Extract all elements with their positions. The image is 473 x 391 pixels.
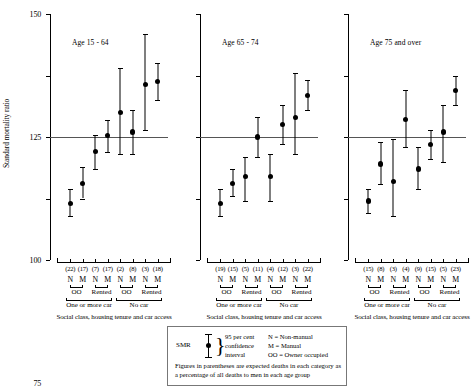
- x-tick: [108, 259, 109, 262]
- expected-deaths-label: (22): [303, 265, 313, 272]
- expected-deaths-label: (8): [129, 265, 136, 272]
- x-tick: [431, 259, 432, 262]
- car-access-label: One or more car: [216, 301, 262, 309]
- x-axis-end-tick: [355, 258, 356, 262]
- social-class-label: N: [92, 275, 98, 284]
- expected-deaths-label: (18): [153, 265, 163, 272]
- expected-deaths-label: (15): [228, 265, 238, 272]
- social-class-label: M: [377, 275, 384, 284]
- x-axis-caption: Social class, housing tenure and car acc…: [56, 313, 171, 321]
- y-tick: [196, 14, 200, 15]
- x-tick: [158, 259, 159, 262]
- expected-deaths-label: (4): [402, 265, 409, 272]
- social-class-label: M: [427, 275, 434, 284]
- social-class-label: M: [304, 275, 311, 284]
- tenure-label: OO: [71, 288, 81, 296]
- y-tick: [196, 260, 200, 261]
- expected-deaths-label: (22): [65, 265, 75, 272]
- tenure-label: OO: [419, 288, 429, 296]
- x-tick: [368, 259, 369, 262]
- legend-errorbar-icon: [204, 333, 213, 359]
- panel-age-15-64: 5075100125150Age 15 - 64(22)N(17)M(7)N(1…: [22, 0, 172, 330]
- expected-deaths-label: (12): [278, 265, 288, 272]
- social-class-label: M: [279, 275, 286, 284]
- legend-brace-icon: }: [215, 333, 226, 357]
- expected-deaths-label: (19): [215, 265, 225, 272]
- y-tick: [196, 76, 200, 77]
- social-class-label: M: [104, 275, 111, 284]
- tenure-label: Rented: [390, 288, 410, 296]
- x-tick: [308, 259, 309, 262]
- social-class-label: N: [292, 275, 298, 284]
- y-tick: [344, 199, 348, 200]
- x-axis-end-tick: [57, 258, 58, 262]
- expected-deaths-label: (15): [426, 265, 436, 272]
- x-tick: [145, 259, 146, 262]
- legend-smr-label: SMR: [176, 341, 191, 349]
- tenure-label: OO: [121, 288, 131, 296]
- social-class-label: N: [217, 275, 223, 284]
- expected-deaths-label: (3): [292, 265, 299, 272]
- expected-deaths-label: (7): [92, 265, 99, 272]
- expected-deaths-label: (15): [363, 265, 373, 272]
- social-class-label: N: [440, 275, 446, 284]
- social-class-label: N: [415, 275, 421, 284]
- reference-line-100: [348, 137, 466, 138]
- x-axis-caption: Social class, housing tenure and car acc…: [206, 313, 321, 321]
- y-tick: 125: [46, 76, 50, 77]
- x-tick: [381, 259, 382, 262]
- legend-key-text: N = Non-manual M = Manual OO = Owner occ…: [268, 332, 328, 359]
- x-axis-end-tick: [207, 258, 208, 262]
- y-tick: 50: [46, 260, 50, 261]
- y-tick: 75: [46, 199, 50, 200]
- social-class-label: M: [229, 275, 236, 284]
- x-tick: [393, 259, 394, 262]
- tenure-label: Rented: [92, 288, 112, 296]
- panel-age-65-74: Age 65 - 74(19)N(15)M(5)N(11)M(4)N(12)M(…: [172, 0, 322, 330]
- plot-area: 5075100125150Age 15 - 64: [50, 14, 168, 260]
- x-axis-end-tick: [170, 258, 171, 262]
- x-tick: [443, 259, 444, 262]
- expected-deaths-label: (8): [377, 265, 384, 272]
- expected-deaths-label: (3): [390, 265, 397, 272]
- expected-deaths-label: (5): [242, 265, 249, 272]
- social-class-label: N: [142, 275, 148, 284]
- expected-deaths-label: (2): [117, 265, 124, 272]
- expected-deaths-label: (4): [267, 265, 274, 272]
- tenure-label: OO: [271, 288, 281, 296]
- social-class-label: N: [242, 275, 248, 284]
- panel-title: Age 15 - 64: [72, 38, 109, 47]
- y-tick: [196, 199, 200, 200]
- y-tick-label: 75: [33, 379, 41, 388]
- tenure-label: Rented: [292, 288, 312, 296]
- social-class-label: M: [402, 275, 409, 284]
- tenure-label: Rented: [142, 288, 162, 296]
- x-tick: [70, 259, 71, 262]
- x-tick: [283, 259, 284, 262]
- panel-age-75-over: Age 75 and over(15)N(8)M(3)N(4)M(9)N(15)…: [320, 0, 470, 330]
- y-tick: 150: [46, 14, 50, 15]
- social-class-label: M: [154, 275, 161, 284]
- social-class-label: N: [67, 275, 73, 284]
- x-tick: [83, 259, 84, 262]
- car-access-label: No car: [428, 301, 447, 309]
- panel-title: Age 75 and over: [370, 38, 421, 47]
- y-tick-label: 125: [30, 133, 41, 142]
- x-axis-caption: Social class, housing tenure and car acc…: [354, 313, 469, 321]
- x-tick: [133, 259, 134, 262]
- social-class-label: N: [267, 275, 273, 284]
- legend-box: SMR } 95 per cent confidence interval N …: [167, 326, 347, 386]
- expected-deaths-label: (9): [415, 265, 422, 272]
- mortality-figure: Standard mortality ratio 5075100125150Ag…: [0, 0, 473, 391]
- x-tick: [95, 259, 96, 262]
- legend-ci-text: 95 per cent confidence interval: [225, 332, 254, 359]
- social-class-label: M: [452, 275, 459, 284]
- y-axis-label: Standard mortality ratio: [2, 99, 11, 168]
- expected-deaths-label: (5): [440, 265, 447, 272]
- x-tick: [245, 259, 246, 262]
- x-tick: [418, 259, 419, 262]
- tenure-label: OO: [221, 288, 231, 296]
- y-tick-label: 100: [30, 256, 41, 265]
- x-tick: [120, 259, 121, 262]
- car-access-label: One or more car: [66, 301, 112, 309]
